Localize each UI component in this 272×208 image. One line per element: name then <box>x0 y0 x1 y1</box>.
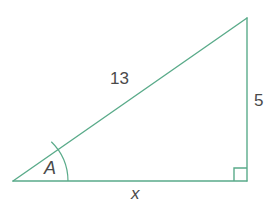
adjacent-side-length-label: x <box>131 185 140 202</box>
opposite-side-length-label: 5 <box>254 92 263 109</box>
triangle-figure: 13 5 x A <box>0 0 272 208</box>
angle-label: A <box>44 159 56 177</box>
hypotenuse-line <box>13 18 247 181</box>
right-angle-square-icon <box>234 168 247 181</box>
triangle-drawing <box>0 0 272 208</box>
hypotenuse-length-label: 13 <box>110 70 129 87</box>
